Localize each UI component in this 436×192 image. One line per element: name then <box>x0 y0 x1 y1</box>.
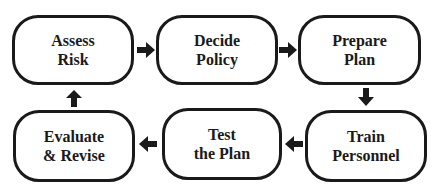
node-label: Personnel <box>332 146 400 165</box>
node-label: Train <box>347 127 385 146</box>
node-prepare-plan: Prepare Plan <box>298 15 421 85</box>
arrow-down-icon <box>358 88 374 106</box>
node-assess-risk: Assess Risk <box>12 15 134 85</box>
node-train-personnel: Train Personnel <box>305 110 427 182</box>
node-label: Test <box>208 125 236 144</box>
node-label: Decide <box>194 31 240 50</box>
node-decide-policy: Decide Policy <box>156 15 278 85</box>
node-label: Prepare <box>332 31 387 50</box>
node-label: Risk <box>57 50 88 69</box>
node-evaluate-revise: Evaluate & Revise <box>13 110 135 182</box>
arrow-left-icon <box>139 136 157 152</box>
node-label: Evaluate <box>44 127 104 146</box>
arrow-left-icon <box>285 136 303 152</box>
node-label: Plan <box>344 50 375 69</box>
arrow-right-icon <box>279 42 297 58</box>
node-test-plan: Test the Plan <box>162 108 282 180</box>
node-label: Policy <box>196 50 238 69</box>
arrow-up-icon <box>66 90 82 107</box>
node-label: the Plan <box>194 144 250 163</box>
arrow-right-icon <box>137 42 155 58</box>
node-label: Assess <box>51 31 95 50</box>
node-label: & Revise <box>43 146 105 165</box>
